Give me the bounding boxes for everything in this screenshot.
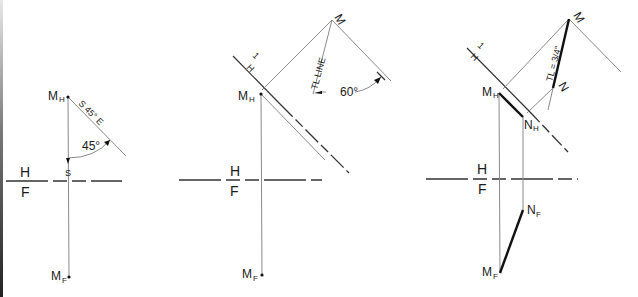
angle-label: 60° xyxy=(340,85,358,99)
bearing-label: S 45° E xyxy=(77,98,106,127)
svg-text:N: N xyxy=(527,203,536,217)
svg-text:H: H xyxy=(245,62,257,74)
svg-text:H: H xyxy=(469,51,481,63)
reference-line xyxy=(332,20,391,81)
panel-step-3: H F H 1 M H N H M N TL = 3/4" N F M F xyxy=(426,10,621,282)
point-mf xyxy=(67,275,70,278)
svg-text:M: M xyxy=(238,89,248,103)
south-marker: S xyxy=(65,168,71,178)
point-mh xyxy=(259,92,262,95)
svg-text:H: H xyxy=(533,124,539,133)
projection-line-m xyxy=(499,93,500,273)
panel-step-2: H F H 1 M H M TL LINE 60° M F xyxy=(179,12,391,284)
svg-text:H: H xyxy=(249,95,255,104)
svg-text:1: 1 xyxy=(251,50,262,61)
svg-text:M: M xyxy=(242,267,252,281)
svg-text:H: H xyxy=(59,95,65,104)
tl-line-label: TL LINE xyxy=(309,56,327,90)
svg-text:F: F xyxy=(536,210,541,219)
projection-line xyxy=(68,97,69,277)
point-mh xyxy=(66,95,69,98)
reference-line xyxy=(569,19,621,72)
fold-label-f: F xyxy=(230,183,239,199)
svg-text:F: F xyxy=(493,272,498,281)
label-n1: N xyxy=(555,80,571,95)
svg-text:M: M xyxy=(482,85,492,99)
svg-text:M: M xyxy=(482,265,492,279)
point-mf xyxy=(260,273,263,276)
arrowhead-icon xyxy=(314,91,322,94)
construction-drawing: H F M H S 45° E 45° S M F H F H 1 xyxy=(0,0,638,297)
label-m: M xyxy=(48,89,58,103)
label-m1: M xyxy=(331,12,348,28)
svg-text:N: N xyxy=(524,118,533,132)
fold-label-h: H xyxy=(230,163,240,179)
line-mn-front xyxy=(500,210,523,273)
parallel-line xyxy=(261,94,325,160)
svg-text:H: H xyxy=(493,91,499,100)
fold-label-h: H xyxy=(20,164,30,180)
arrowhead-icon xyxy=(66,158,70,164)
angle-label: 45° xyxy=(82,139,100,153)
fold-label-f: F xyxy=(21,184,30,200)
svg-text:F: F xyxy=(478,181,487,197)
projector-n1 xyxy=(527,88,553,113)
svg-text:F: F xyxy=(253,274,258,283)
panel-step-1: H F M H S 45° E 45° S M F xyxy=(6,89,126,285)
tl-value-label: TL = 3/4" xyxy=(544,45,563,82)
svg-text:1: 1 xyxy=(476,40,487,51)
line-mn-top xyxy=(499,93,523,117)
svg-text:F: F xyxy=(62,276,67,285)
projection-line xyxy=(261,94,262,275)
svg-text:H: H xyxy=(477,161,487,177)
label-m: M xyxy=(51,269,61,283)
